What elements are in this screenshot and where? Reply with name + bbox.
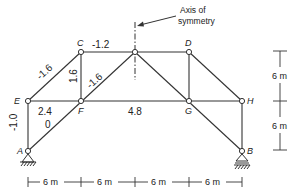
dim-h-3: 6 m xyxy=(151,177,166,187)
joint-G xyxy=(186,98,191,103)
dim-v-2: 6 m xyxy=(272,121,287,131)
axis-label-line2: symmetry xyxy=(178,16,216,26)
dim-v-1: 6 m xyxy=(272,71,287,81)
force-EF: 2.4 xyxy=(38,106,52,117)
force-AE: -1.0 xyxy=(8,113,19,131)
joint-B xyxy=(239,148,244,153)
node-label-F: F xyxy=(78,106,84,116)
joint-C xyxy=(78,49,83,54)
node-label-A: A xyxy=(16,146,23,156)
joint-F xyxy=(78,98,83,103)
node-label-D: D xyxy=(185,38,192,48)
force-AF: 0 xyxy=(45,119,51,130)
node-label-E: E xyxy=(14,96,21,106)
member-DH xyxy=(189,52,242,101)
force-FT: -1.6 xyxy=(84,70,104,90)
vertical-dimension xyxy=(273,51,287,150)
force-CT: -1.2 xyxy=(92,39,110,50)
axis-leader-line xyxy=(140,16,176,25)
node-label-G: G xyxy=(185,106,192,116)
node-label-B: B xyxy=(247,146,253,156)
joint-A xyxy=(25,148,30,153)
force-CF: 1.6 xyxy=(68,69,79,83)
node-label-H: H xyxy=(247,96,254,106)
joint-E xyxy=(25,98,30,103)
force-FG: 4.8 xyxy=(128,106,142,117)
dim-h-4: 6 m xyxy=(205,177,220,187)
truss-members xyxy=(28,52,242,151)
joint-top-center xyxy=(132,49,137,54)
dim-h-1: 6 m xyxy=(43,177,58,187)
arrowhead-icon xyxy=(137,22,144,27)
joint-H xyxy=(239,98,244,103)
truss-diagram: Axis of symmetry E C D F G H A xyxy=(0,0,307,195)
node-label-C: C xyxy=(77,38,84,48)
dim-h-2: 6 m xyxy=(97,177,112,187)
axis-label-line1: Axis of xyxy=(180,5,206,15)
joint-D xyxy=(186,49,191,54)
roller-support-icon xyxy=(234,154,250,169)
